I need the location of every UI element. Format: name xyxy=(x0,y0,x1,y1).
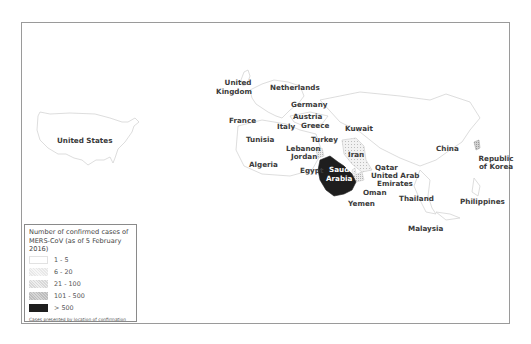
swatch-6-20 xyxy=(29,268,48,276)
swatch-101-500 xyxy=(29,292,48,300)
label-united-kingdom-line2: Kingdom xyxy=(211,87,257,96)
label-yemen: Yemen xyxy=(348,199,375,208)
label-malaysia: Malaysia xyxy=(408,224,443,233)
label-kuwait: Kuwait xyxy=(345,124,373,133)
label-jordan: Jordan xyxy=(291,152,317,161)
label-thailand: Thailand xyxy=(399,194,434,203)
label-turkey: Turkey xyxy=(311,135,338,144)
legend-label: 21 - 100 xyxy=(54,280,81,288)
label-austria: Austria xyxy=(293,112,322,121)
label-italy: Italy xyxy=(277,122,295,131)
label-china: China xyxy=(436,144,459,153)
legend-item-101-500: 101 - 500 xyxy=(29,290,132,302)
country-korea xyxy=(474,140,480,150)
legend-label: 1 - 5 xyxy=(54,256,69,264)
swatch-1-5 xyxy=(29,256,48,264)
legend-label: 101 - 500 xyxy=(54,292,85,300)
label-korea-line2: of Korea xyxy=(476,162,516,171)
country-qatar xyxy=(352,168,356,174)
legend-item-1-5: 1 - 5 xyxy=(29,254,132,266)
country-philippines xyxy=(472,178,480,196)
legend-label: > 500 xyxy=(54,304,74,312)
label-oman: Oman xyxy=(363,188,387,197)
region-russia-asia xyxy=(320,92,480,166)
label-tunisia: Tunisia xyxy=(246,135,274,144)
label-united-kingdom-line1: United xyxy=(218,78,258,87)
swatch-over-500 xyxy=(29,304,48,312)
legend-item-over-500: > 500 xyxy=(29,302,132,314)
legend-note: Cases presented by location of confirmat… xyxy=(29,317,132,322)
label-saudi-arabia-line1: Saudi xyxy=(329,165,352,174)
swatch-21-100 xyxy=(29,280,48,288)
map-legend: Number of confirmed cases of MERS-CoV (a… xyxy=(24,224,137,322)
label-france: France xyxy=(229,116,256,125)
legend-item-21-100: 21 - 100 xyxy=(29,278,132,290)
legend-title-line1: Number of confirmed cases of xyxy=(29,228,132,237)
label-saudi-arabia-line2: Arabia xyxy=(326,174,352,183)
label-uae-line2: Emirates xyxy=(377,179,413,188)
legend-title-line2: MERS-CoV (as of 5 February 2016) xyxy=(29,237,132,254)
label-greece: Greece xyxy=(301,121,329,130)
label-germany: Germany xyxy=(291,100,327,109)
label-algeria: Algeria xyxy=(249,160,278,169)
label-iran: Iran xyxy=(348,150,364,159)
label-philippines: Philippines xyxy=(460,197,505,206)
legend-label: 6 - 20 xyxy=(54,268,73,276)
legend-item-6-20: 6 - 20 xyxy=(29,266,132,278)
country-malaysia xyxy=(436,212,460,220)
label-netherlands: Netherlands xyxy=(270,83,320,92)
label-united-states: United States xyxy=(57,136,112,145)
label-egypt: Egypt xyxy=(300,166,323,175)
